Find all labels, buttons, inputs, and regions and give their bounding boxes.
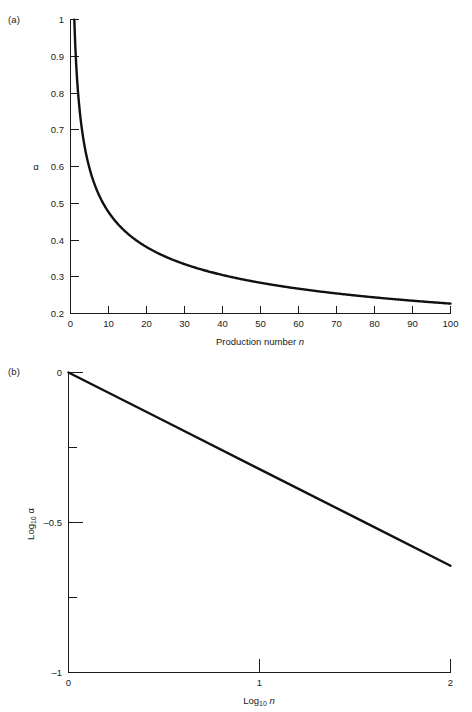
panel-a-ytick-4: 0.6: [51, 161, 64, 172]
panel-b-data-line: [69, 373, 451, 566]
panel-a-ytick-3: 0.5: [51, 198, 64, 209]
panel-a-ytick-2: 0.4: [51, 235, 64, 246]
panel-a-xtick-6: 60: [293, 318, 304, 329]
panel-a-xtick-4: 40: [217, 318, 228, 329]
panel-b-plot: 0 –0.5 –1 0 1 2 Log10 α Log10 n: [0, 352, 472, 712]
panel-a-ytick-1: 0.3: [51, 271, 64, 282]
figure-container: (a): [0, 0, 472, 712]
panel-a-xtick-7: 70: [331, 318, 342, 329]
panel-a-x-ticks: [71, 306, 451, 314]
panel-b-ytick-1: –0.5: [44, 517, 63, 528]
panel-b-xtick-1: 1: [257, 677, 262, 688]
panel-b-ytick-0: 0: [57, 367, 62, 378]
panel-a-x-axis-title: Production number n: [216, 336, 304, 347]
panel-b-x-ticks: [69, 659, 451, 673]
panel-a-ytick-0: 0.2: [51, 308, 64, 319]
panel-a-ytick-5: 0.7: [51, 124, 64, 135]
panel-a-y-ticklabels: 0.2 0.3 0.4 0.5 0.6 0.7 0.8 0.9 1: [51, 14, 64, 319]
panel-a-xtick-5: 50: [255, 318, 266, 329]
panel-a-xtick-1: 10: [103, 318, 114, 329]
panel-a-x-ticklabels: 0 10 20 30 40 50 60 70 80 90 100: [68, 318, 459, 329]
panel-a: (a): [0, 0, 472, 358]
panel-a-xtick-0: 0: [68, 318, 73, 329]
panel-a-data-curve: [74, 20, 450, 304]
panel-b-y-axis-title: Log10 α: [25, 508, 37, 540]
panel-a-xtick-2: 20: [141, 318, 152, 329]
panel-b-ytick-2: –1: [51, 667, 62, 678]
panel-a-ytick-8: 1: [59, 14, 64, 25]
panel-a-plot: 0.2 0.3 0.4 0.5 0.6 0.7 0.8 0.9 1 0 10 2…: [0, 0, 472, 358]
panel-b-xtick-2: 2: [448, 677, 453, 688]
panel-a-tag: (a): [8, 14, 20, 25]
panel-a-xtick-8: 80: [369, 318, 380, 329]
panel-b-x-axis-title: Log10 n: [243, 695, 275, 707]
panel-b-tag: (b): [8, 366, 20, 377]
panel-b-xtick-0: 0: [66, 677, 71, 688]
panel-a-ytick-6: 0.8: [51, 88, 64, 99]
panel-b-y-ticks: [69, 373, 83, 673]
panel-a-xtick-10: 100: [443, 318, 459, 329]
panel-a-ytick-7: 0.9: [51, 51, 64, 62]
panel-b-y-ticklabels: 0 –0.5 –1: [44, 367, 63, 678]
panel-a-xtick-9: 90: [407, 318, 418, 329]
panel-b-x-ticklabels: 0 1 2: [66, 677, 453, 688]
panel-b: (b) 0 –0.5: [0, 352, 472, 712]
panel-a-y-axis-title: α: [33, 161, 39, 172]
panel-a-xtick-3: 30: [179, 318, 190, 329]
